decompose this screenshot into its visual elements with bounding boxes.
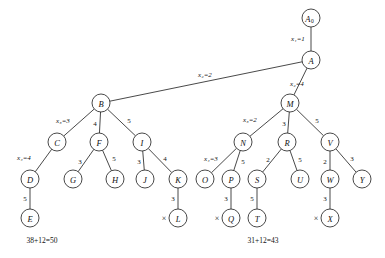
edge-label-I-J: 3	[137, 158, 141, 166]
edge-label-K-L: 3	[171, 195, 175, 203]
node-label-E: E	[26, 214, 33, 224]
tree-node-R[interactable]: R	[278, 133, 296, 151]
tree-edge-C-D	[35, 149, 51, 171]
edge-label-A-B: x₂=2	[197, 71, 212, 79]
node-label-B: B	[98, 99, 103, 109]
tree-diagram: A0ABMCFINRVDGHJKOPSUWYELQTX x₁=1x₂=2x₂=4…	[0, 0, 385, 258]
sum-annotation-1: 38+12=50	[27, 236, 58, 245]
tree-node-G[interactable]: G	[64, 170, 82, 188]
tree-node-H[interactable]: H	[106, 170, 124, 188]
tree-node-U[interactable]: U	[291, 170, 309, 188]
prune-cross-icon-L: ×	[162, 214, 167, 223]
tree-edge-M-V	[296, 109, 323, 135]
prune-cross-icon-X: ×	[314, 214, 319, 223]
edge-label-D-E: 5	[23, 195, 27, 203]
prune-cross-icon-Q: ×	[215, 214, 220, 223]
tree-node-I[interactable]: I	[133, 133, 151, 151]
edge-label-B-C: x₃=3	[55, 117, 70, 125]
edge-label-S-T: 5	[250, 195, 254, 203]
tree-node-X[interactable]: X	[321, 209, 339, 227]
tree-node-K[interactable]: K	[169, 170, 187, 188]
node-label-A: A	[307, 56, 314, 66]
tree-node-F[interactable]: F	[90, 133, 108, 151]
edge-label-M-N: x₃=2	[242, 116, 257, 124]
tree-node-S[interactable]: S	[248, 170, 266, 188]
node-label-X: X	[326, 214, 333, 224]
tree-node-A0[interactable]: A0	[302, 9, 320, 27]
tree-edge-B-I	[108, 109, 136, 136]
node-label-C: C	[54, 138, 60, 148]
tree-edge-M-R	[288, 112, 290, 133]
tree-node-A[interactable]: A	[302, 51, 320, 69]
edge-label-C-D: x₄=4	[16, 154, 31, 162]
tree-edge-B-F	[99, 112, 100, 133]
tree-node-T[interactable]: T	[248, 209, 266, 227]
tree-node-N[interactable]: N	[234, 133, 252, 151]
node-label-D: D	[26, 175, 34, 185]
node-label-R: R	[283, 138, 290, 148]
edge-label-R-S: 2	[266, 156, 270, 164]
sum-annotation-2: 31+12=43	[248, 236, 279, 245]
node-label-L: L	[175, 214, 181, 224]
edge-label-A-M: x₂=4	[289, 80, 304, 88]
edge-label-F-G: 3	[78, 158, 82, 166]
node-label-U: U	[297, 175, 304, 185]
tree-node-Q[interactable]: Q	[222, 209, 240, 227]
diagram-canvas: A0ABMCFINRVDGHJKOPSUWYELQTX x₁=1x₂=2x₂=4…	[0, 0, 385, 258]
tree-node-C[interactable]: C	[48, 133, 66, 151]
tree-edge-F-H	[103, 150, 112, 170]
tree-node-B[interactable]: B	[92, 94, 110, 112]
edge-label-M-V: 5	[315, 117, 319, 125]
tree-edge-I-J	[143, 151, 145, 170]
tree-edge-I-K	[148, 148, 171, 172]
tree-node-E[interactable]: E	[21, 209, 39, 227]
edge-label-F-H: 5	[112, 155, 116, 163]
edge-label-B-I: 5	[127, 117, 131, 125]
edge-label-W-X: 3	[323, 195, 327, 203]
node-label-H: H	[111, 175, 119, 185]
tree-node-M[interactable]: M	[281, 94, 299, 112]
node-subscript-A0: 0	[311, 18, 314, 24]
edge-label-V-W: 2	[323, 158, 327, 166]
node-label-W: W	[326, 175, 334, 185]
tree-node-J[interactable]: J	[136, 170, 154, 188]
edge-label-P-Q: 3	[224, 195, 228, 203]
tree-node-P[interactable]: P	[222, 170, 240, 188]
tree-node-Y[interactable]: Y	[353, 170, 371, 188]
tree-edge-R-U	[290, 150, 297, 170]
edge-label-A0-A: x₁=1	[290, 35, 305, 43]
tree-edge-A-B	[110, 62, 302, 101]
node-label-P: P	[227, 175, 233, 185]
node-label-O: O	[202, 175, 208, 185]
tree-node-L[interactable]: L	[169, 209, 187, 227]
edge-label-V-Y: 3	[350, 155, 354, 163]
edge-label-N-O: x₄=3	[203, 155, 218, 163]
edge-label-M-R: 3	[282, 120, 286, 128]
tree-edge-N-P	[234, 151, 240, 171]
edge-label-I-K: 4	[163, 155, 167, 163]
node-label-F: F	[95, 138, 102, 148]
tree-node-V[interactable]: V	[321, 133, 339, 151]
tree-node-W[interactable]: W	[321, 170, 339, 188]
edge-label-N-P: 5	[241, 158, 245, 166]
edge-label-R-U: 5	[298, 156, 302, 164]
node-label-G: G	[70, 175, 76, 185]
tree-node-D[interactable]: D	[21, 170, 39, 188]
sum-labels-layer: 38+12=5031+12=43	[27, 236, 279, 245]
edge-label-B-F: 4	[93, 120, 97, 128]
tree-node-O[interactable]: O	[196, 170, 214, 188]
node-label-M: M	[285, 99, 294, 109]
node-label-Q: Q	[228, 214, 234, 224]
